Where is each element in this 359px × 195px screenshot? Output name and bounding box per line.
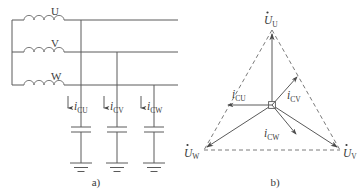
- capacitor-icon: [107, 127, 127, 132]
- phase-label-u: U: [51, 5, 59, 17]
- current-subscript: CU: [235, 94, 246, 103]
- phasor-current-label-icv: iCV: [287, 89, 301, 104]
- voltage-label-uu: UU: [264, 11, 278, 28]
- svg-text:UV: UV: [343, 147, 357, 162]
- voltage-subscript: U: [272, 20, 278, 29]
- current-subscript: CW: [267, 133, 280, 142]
- voltage-phasor-v: [272, 105, 337, 147]
- svg-text:UW: UW: [184, 147, 200, 162]
- phase-label-v: V: [51, 37, 59, 49]
- phasor-diagram-panel: UU UW UV iCU iCV: [180, 0, 359, 195]
- caption-b: b): [270, 176, 280, 189]
- phasor-current-label-icu: iCU: [232, 88, 246, 103]
- winding-branch-u: [12, 15, 178, 20]
- phasor-current-label-icw: iCW: [264, 127, 280, 142]
- ground-icon: [70, 163, 92, 172]
- voltage-label-uv: UV: [343, 144, 357, 161]
- capacitive-branch-u: [68, 20, 92, 172]
- current-subscript: CV: [113, 106, 124, 115]
- voltage-label-uw: UW: [184, 144, 200, 161]
- winding-branch-w: [12, 80, 178, 85]
- current-label-icw: iCW: [147, 100, 163, 115]
- current-subscript: CW: [150, 106, 163, 115]
- voltage-subscript: W: [192, 152, 200, 161]
- capacitor-icon: [71, 127, 91, 132]
- circuit-diagram-panel: U V W: [0, 0, 180, 195]
- voltage-phasor-w: [207, 105, 272, 147]
- capacitive-branch-w: [141, 85, 165, 172]
- figure-container: U V W: [0, 0, 359, 195]
- ground-icon: [106, 163, 128, 172]
- phasor-diagram-svg: UU UW UV iCU iCV: [180, 0, 359, 195]
- winding-branch-v: [12, 47, 178, 52]
- svg-text:UU: UU: [264, 14, 278, 29]
- current-subscript: CU: [77, 106, 88, 115]
- voltage-subscript: V: [351, 152, 357, 161]
- current-phasor-icw: [272, 105, 296, 134]
- ground-icon: [143, 163, 165, 172]
- circuit-diagram-svg: U V W: [0, 0, 180, 195]
- current-subscript: CV: [290, 95, 301, 104]
- capacitor-icon: [144, 127, 164, 132]
- phase-label-w: W: [51, 70, 62, 82]
- caption-a: a): [92, 176, 101, 189]
